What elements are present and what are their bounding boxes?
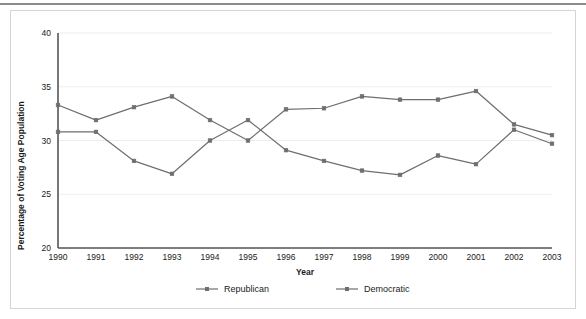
- legend-marker-icon: [205, 287, 209, 291]
- x-tick-label: 1994: [201, 252, 220, 262]
- x-tick-label: 1992: [125, 252, 144, 262]
- x-tick-label: 2002: [505, 252, 524, 262]
- x-tick-label: 2001: [467, 252, 486, 262]
- data-point-marker: [170, 95, 174, 99]
- y-tick-labels: 2025303540: [42, 28, 52, 253]
- x-tick-label: 1991: [87, 252, 106, 262]
- data-point-marker: [284, 108, 288, 112]
- x-tick-label: 1993: [163, 252, 182, 262]
- y-tick-label: 30: [42, 136, 52, 146]
- data-point-marker: [284, 148, 288, 152]
- x-tick-label: 1999: [391, 252, 410, 262]
- data-point-marker: [94, 118, 98, 122]
- x-tick-label: 1995: [239, 252, 258, 262]
- data-point-marker: [436, 154, 440, 158]
- series-line: [58, 120, 552, 175]
- data-point-marker: [322, 106, 326, 110]
- gridlines: [58, 33, 552, 248]
- data-point-marker: [398, 98, 402, 102]
- line-chart: 2025303540 19901991199219931994199519961…: [0, 0, 586, 319]
- data-point-marker: [246, 139, 250, 143]
- legend-marker-icon: [345, 287, 349, 291]
- data-point-marker: [170, 172, 174, 176]
- y-axis-title: Percentage of Voting Age Population: [16, 101, 26, 250]
- data-point-marker: [56, 130, 60, 134]
- data-point-marker: [512, 123, 516, 127]
- x-tick-label: 2003: [543, 252, 562, 262]
- x-axis-title: Year: [296, 267, 315, 277]
- data-point-marker: [512, 128, 516, 132]
- data-series-layer: [56, 89, 554, 176]
- y-tick-label: 40: [42, 28, 52, 38]
- data-point-marker: [550, 133, 554, 137]
- x-tick-label: 1998: [353, 252, 372, 262]
- series-line: [58, 91, 552, 140]
- data-point-marker: [360, 95, 364, 99]
- data-point-marker: [208, 139, 212, 143]
- data-point-marker: [474, 162, 478, 166]
- x-tick-label: 1997: [315, 252, 334, 262]
- y-tick-label: 25: [42, 189, 52, 199]
- data-point-marker: [246, 118, 250, 122]
- y-tick-label: 35: [42, 82, 52, 92]
- data-point-marker: [360, 169, 364, 173]
- data-point-marker: [132, 159, 136, 163]
- legend-item-label: Democratic: [364, 284, 410, 294]
- x-tick-labels: 1990199119921993199419951996199719981999…: [49, 252, 562, 262]
- data-point-marker: [474, 89, 478, 93]
- data-point-marker: [322, 159, 326, 163]
- chart-container: 2025303540 19901991199219931994199519961…: [0, 0, 586, 319]
- x-tick-label: 2000: [429, 252, 448, 262]
- data-point-marker: [132, 105, 136, 109]
- data-point-marker: [436, 98, 440, 102]
- legend-item-label: Republican: [224, 284, 269, 294]
- x-tick-label: 1996: [277, 252, 296, 262]
- chart-legend: RepublicanDemocratic: [196, 284, 410, 294]
- data-point-marker: [94, 130, 98, 134]
- data-point-marker: [550, 142, 554, 146]
- data-point-marker: [56, 103, 60, 107]
- data-point-marker: [398, 173, 402, 177]
- x-tick-label: 1990: [49, 252, 68, 262]
- screenshot-frame: 2025303540 19901991199219931994199519961…: [0, 0, 586, 319]
- data-point-marker: [208, 118, 212, 122]
